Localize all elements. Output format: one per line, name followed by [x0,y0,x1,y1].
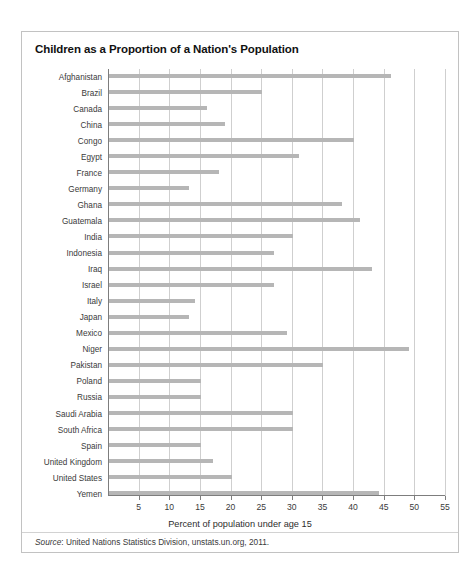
bar-row [108,262,445,278]
bar-row [108,406,445,422]
tick-label-40: 40 [348,502,358,512]
bar-china [109,122,225,126]
category-label-row: United States [22,470,106,486]
x-axis-tick-labels: 510152025303540455055 [108,502,445,514]
bar-row [108,374,445,390]
bar-row [108,165,445,181]
category-label: Egypt [81,153,102,162]
page-top-clipped-text [62,0,212,4]
category-label: Mexico [76,329,102,338]
tick-mark-50 [414,496,415,500]
category-label: Indonesia [66,249,102,258]
category-label-row: Niger [22,342,106,358]
bar-row [108,246,445,262]
source-divider [22,532,458,533]
tick-label-15: 15 [195,502,205,512]
category-label: India [84,233,102,242]
tick-label-10: 10 [164,502,174,512]
category-label: Poland [77,377,103,386]
x-axis-tick-marks [108,496,445,501]
category-label: Niger [82,345,102,354]
figure-container: Children as a Proportion of a Nation's P… [21,31,459,553]
bar-row [108,117,445,133]
tick-label-30: 30 [287,502,297,512]
bar-niger [109,347,409,351]
category-label: Germany [68,185,102,194]
bar-row [108,69,445,85]
bar-row [108,390,445,406]
bar-afghanistan [109,74,391,78]
bar-row [108,197,445,213]
category-label-row: Brazil [22,85,106,101]
bar-germany [109,186,189,190]
bar-poland [109,379,201,383]
category-label: Russia [77,393,102,402]
bar-row [108,278,445,294]
bar-row [108,310,445,326]
category-label: Italy [87,297,102,306]
tick-label-50: 50 [410,502,420,512]
bar-pakistan [109,363,323,367]
category-label-row: Germany [22,181,106,197]
tick-mark-5 [139,496,140,500]
tick-label-35: 35 [318,502,328,512]
bar-italy [109,299,195,303]
category-label: Israel [82,281,102,290]
bar-south-africa [109,427,293,431]
bar-russia [109,395,201,399]
bar-egypt [109,154,299,158]
category-label: China [81,121,102,130]
category-label-row: Canada [22,101,106,117]
category-label: Ghana [77,201,102,210]
category-label: Afghanistan [59,73,102,82]
category-label-row: Egypt [22,149,106,165]
bar-ghana [109,202,342,206]
source-note: Source: United Nations Statistics Divisi… [35,537,269,547]
bar-row [108,229,445,245]
category-label-row: Iraq [22,262,106,278]
bar-indonesia [109,251,274,255]
tick-label-25: 25 [256,502,266,512]
bar-row [108,422,445,438]
tick-mark-10 [169,496,170,500]
category-label-row: Japan [22,310,106,326]
category-label-row: Afghanistan [22,69,106,85]
bar-iraq [109,267,372,271]
source-detail: : United Nations Statistics Division, un… [61,537,269,547]
category-label: Saudi Arabia [56,410,102,419]
bar-congo [109,138,354,142]
tick-mark-45 [384,496,385,500]
category-label-row: Italy [22,294,106,310]
bar-saudi-arabia [109,411,293,415]
category-label-row: Pakistan [22,358,106,374]
figure-page: Children as a Proportion of a Nation's P… [0,0,476,586]
bar-brazil [109,90,262,94]
bar-row [108,133,445,149]
tick-mark-35 [322,496,323,500]
category-label: Canada [73,105,102,114]
gridline-55 [445,69,446,496]
category-label: Yemen [77,490,102,499]
bar-spain [109,443,201,447]
source-label: Source [35,537,61,547]
tick-mark-30 [292,496,293,500]
category-label: United Kingdom [44,458,102,467]
bar-row [108,326,445,342]
category-label-row: South Africa [22,422,106,438]
category-label-row: Ghana [22,197,106,213]
bar-row [108,470,445,486]
tick-label-5: 5 [136,502,141,512]
category-label: Pakistan [71,361,102,370]
bar-row [108,294,445,310]
bars-layer [108,69,445,502]
bar-japan [109,315,189,319]
tick-mark-15 [200,496,201,500]
category-label-row: Israel [22,278,106,294]
category-label: Japan [80,313,102,322]
category-label-row: Poland [22,374,106,390]
tick-mark-25 [261,496,262,500]
bar-united-states [109,475,232,479]
tick-label-20: 20 [226,502,236,512]
bar-canada [109,106,207,110]
bar-israel [109,283,274,287]
